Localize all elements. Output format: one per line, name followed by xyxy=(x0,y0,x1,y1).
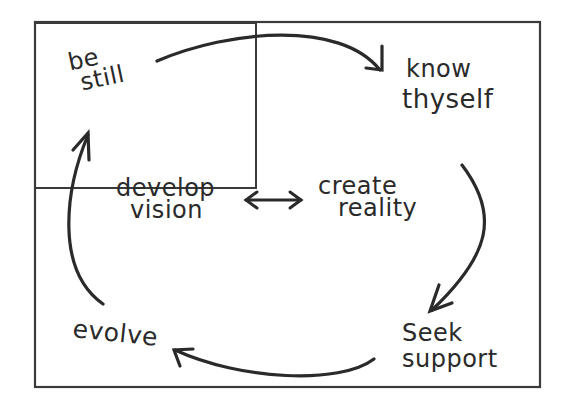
node-be-still: be still xyxy=(66,41,126,95)
node-know-thyself-line1: know xyxy=(406,58,493,80)
center-create-reality: create reality xyxy=(318,175,417,219)
arrow-evolve-to-bestill xyxy=(69,133,103,304)
center-develop-vision: develop vision xyxy=(116,177,215,221)
center-vision-line: vision xyxy=(130,199,215,221)
node-know-thyself: know thyself xyxy=(406,58,493,110)
node-seek-support-line1: Seek xyxy=(402,322,498,344)
node-seek-support-line2: support xyxy=(402,348,498,370)
arrow-knowthyself-to-seeksupport xyxy=(430,165,485,311)
center-reality-line: reality xyxy=(338,197,417,219)
diagram-canvas: be still know thyself Seek support evolv… xyxy=(0,0,568,415)
node-evolve: evolve xyxy=(72,318,159,349)
bidirectional-arrow-icon xyxy=(246,192,301,208)
arrow-seeksupport-to-evolve xyxy=(174,349,374,376)
node-evolve-line1: evolve xyxy=(72,318,159,349)
node-seek-support: Seek support xyxy=(402,322,498,370)
arrow-bestill-to-knowthyself xyxy=(157,35,382,70)
node-know-thyself-line2: thyself xyxy=(402,88,493,110)
